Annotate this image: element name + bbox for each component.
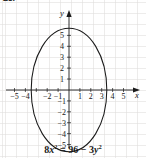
x-tick-label: −2 <box>43 92 52 101</box>
equation-exponent-y: 2 <box>98 143 101 150</box>
x-tick-label: −5 <box>10 92 19 101</box>
equation-constant: 96 <box>68 144 78 155</box>
x-tick-label: 2 <box>89 92 93 101</box>
equation-equals: = <box>60 144 66 155</box>
equation-minus: − <box>81 144 87 155</box>
y-tick-label: −4 <box>57 130 66 139</box>
ellipse-figure: 28. x y <box>0 0 146 158</box>
x-axis-label: x <box>134 90 139 100</box>
y-tick-label: −3 <box>57 119 66 128</box>
x-tick-label: 5 <box>122 92 126 101</box>
y-tick-label: 5 <box>60 31 64 40</box>
coordinate-plot: x y −5 <box>0 0 146 158</box>
y-tick-label: 4 <box>60 42 64 51</box>
y-axis-label: y <box>59 8 64 18</box>
y-tick-label: 1 <box>60 75 64 84</box>
y-tick-label: −2 <box>57 108 66 117</box>
x-tick-label: −4 <box>21 92 30 101</box>
x-tick-label: 1 <box>78 92 82 101</box>
equation-caption: 8x2 = 96 − 3y2 <box>0 141 146 156</box>
x-tick-label: 4 <box>111 92 115 101</box>
y-tick-label: 3 <box>60 53 64 62</box>
x-tick-labels: −5 −4 −2 −1 1 2 3 4 5 <box>10 92 125 101</box>
y-tick-label: 2 <box>60 64 64 73</box>
x-tick-label: 3 <box>100 92 104 101</box>
equation-exponent-x: 2 <box>54 143 57 150</box>
y-tick-label: −1 <box>57 97 66 106</box>
